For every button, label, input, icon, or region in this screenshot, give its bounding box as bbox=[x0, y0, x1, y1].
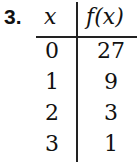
cell-fx: 3 bbox=[91, 100, 131, 125]
cell-x: 1 bbox=[37, 69, 67, 94]
cell-x: 0 bbox=[37, 38, 67, 63]
cell-fx: 9 bbox=[91, 69, 131, 94]
cell-x: 2 bbox=[37, 100, 67, 125]
cell-x: 3 bbox=[37, 131, 67, 156]
header-fx: f(x) bbox=[86, 4, 124, 29]
column-divider bbox=[76, 2, 78, 162]
header-x: x bbox=[44, 4, 56, 29]
cell-fx: 27 bbox=[91, 38, 131, 63]
problem-number: 3. bbox=[4, 5, 22, 29]
cell-fx: 1 bbox=[91, 131, 131, 156]
